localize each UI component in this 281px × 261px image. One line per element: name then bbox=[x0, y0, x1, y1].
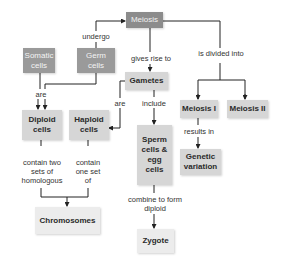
node-meiosis-label: Meiosis bbox=[131, 15, 158, 25]
node-sperm-egg-cells: Sperm cells & egg cells bbox=[137, 125, 172, 185]
node-meiosis-ii: Meiosis II bbox=[227, 100, 268, 118]
node-meiosis-ii-label: Meiosis II bbox=[229, 104, 265, 114]
node-genetic-variation: Genetic variation bbox=[180, 149, 221, 175]
label-undergo: undergo bbox=[79, 32, 113, 41]
node-chromosomes-label: Chromosomes bbox=[39, 216, 95, 226]
label-are-haploid: are bbox=[112, 99, 128, 108]
node-gametes-label: Gametes bbox=[130, 76, 164, 86]
node-meiosis: Meiosis bbox=[126, 12, 163, 28]
label-include: include bbox=[138, 99, 170, 108]
label-gives-rise-to: gives rise to bbox=[128, 54, 174, 63]
label-contain-one-set: contain one set of bbox=[73, 158, 103, 185]
node-sperm-egg-label: Sperm cells & egg cells bbox=[141, 135, 168, 175]
label-contain-two-sets: contain two sets of homologous bbox=[20, 158, 64, 185]
node-diploid-label: Diploid cells bbox=[28, 115, 56, 135]
node-genetic-variation-label: Genetic variation bbox=[183, 152, 218, 172]
node-diploid-cells: Diploid cells bbox=[22, 110, 62, 140]
label-results-in: results in bbox=[183, 127, 215, 136]
node-germ-label: Germ cells bbox=[83, 51, 109, 71]
node-zygote-label: Zygote bbox=[142, 236, 168, 246]
node-somatic-cells: Somatic cells bbox=[23, 48, 55, 73]
label-combine-to-form-diploid: combine to form diploid bbox=[128, 195, 182, 213]
node-haploid-cells: Haploid cells bbox=[69, 110, 109, 140]
node-chromosomes: Chromosomes bbox=[35, 207, 100, 234]
node-germ-cells: Germ cells bbox=[77, 48, 115, 73]
node-meiosis-i-label: Meiosis I bbox=[182, 104, 216, 114]
node-haploid-label: Haploid cells bbox=[74, 115, 103, 135]
label-is-divided-into: is divided into bbox=[196, 49, 246, 58]
node-meiosis-i: Meiosis I bbox=[180, 100, 218, 118]
node-gametes: Gametes bbox=[125, 72, 168, 90]
node-zygote: Zygote bbox=[137, 229, 174, 253]
node-somatic-label: Somatic cells bbox=[23, 51, 55, 71]
label-are-diploid: are bbox=[33, 90, 49, 99]
